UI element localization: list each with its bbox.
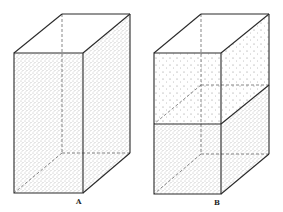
panel-label-a: A	[76, 197, 81, 206]
box-b-front-upper	[154, 53, 221, 124]
box-b	[154, 14, 269, 194]
box-a-front-face	[14, 53, 83, 193]
box-b-front-lower	[154, 124, 221, 194]
box-a-side-face	[83, 14, 130, 193]
box-a	[14, 14, 130, 193]
diagram-canvas	[0, 0, 283, 212]
panel-label-b: B	[214, 198, 220, 207]
